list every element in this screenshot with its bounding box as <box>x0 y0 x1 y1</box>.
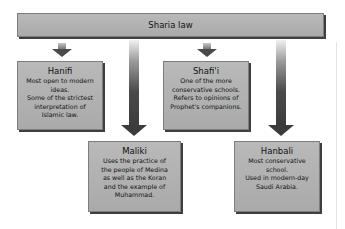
description-line: interpretation of <box>22 103 98 112</box>
description-line: One of the more <box>168 77 244 86</box>
description-line: the people of Medina <box>93 166 176 175</box>
description-line: Used in modern-day <box>239 174 315 183</box>
description-line: Most open to modern <box>22 77 98 86</box>
node-title: Shafi'i <box>164 66 248 77</box>
description-line: as well as the Koran <box>93 174 176 183</box>
node-title: Hanifi <box>18 66 102 77</box>
long-arrow-down-icon <box>121 40 147 137</box>
arrow-down-icon <box>52 43 72 58</box>
node-maliki: Maliki Uses the practice of the people o… <box>88 141 181 212</box>
description-line: Most conservative <box>239 157 315 166</box>
node-title: Maliki <box>89 146 180 157</box>
description-line: Refers to opinions of <box>168 94 244 103</box>
node-title: Hanbali <box>235 146 319 157</box>
page-edge-divider <box>336 42 337 229</box>
node-shafii: Shafi'i One of the more conservative sch… <box>163 61 249 130</box>
description-line: Saudi Arabia. <box>239 183 315 192</box>
arrow-down-icon <box>197 43 217 58</box>
description-line: ideas. <box>22 86 98 95</box>
node-hanifi: Hanifi Most open to modern ideas. Some o… <box>17 61 103 130</box>
description-line: conservative schools. <box>168 86 244 95</box>
description-line: Some of the strictest <box>22 94 98 103</box>
description-line: school. <box>239 166 315 175</box>
description-line: Islamic law. <box>22 111 98 120</box>
description-line: Uses the practice of <box>93 157 176 166</box>
node-description: Uses the practice of the people of Medin… <box>89 157 180 200</box>
description-line: Prophet's companions. <box>168 103 244 112</box>
node-description: Most open to modern ideas. Some of the s… <box>18 77 102 120</box>
node-description: Most conservative school. Used in modern… <box>235 157 319 191</box>
node-hanbali: Hanbali Most conservative school. Used i… <box>234 141 320 212</box>
root-node-sharia-law: Sharia law <box>17 13 324 37</box>
description-line: Muhammad. <box>93 191 176 200</box>
root-label: Sharia law <box>148 20 192 30</box>
long-arrow-down-icon <box>268 40 294 137</box>
node-description: One of the more conservative schools. Re… <box>164 77 248 111</box>
description-line: and the example of <box>93 183 176 192</box>
